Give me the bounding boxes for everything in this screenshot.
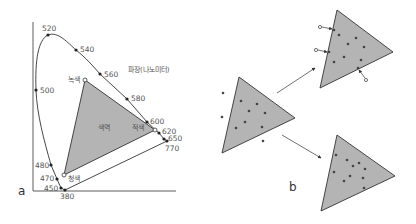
- red-primary-marker: [153, 128, 157, 132]
- diagram-canvas: 520 540 560 580 600 620 650 770 500 480 …: [0, 0, 416, 224]
- bottom-triangle: [321, 135, 395, 211]
- top-triangle: [320, 10, 393, 88]
- wl-label-520: 520: [42, 24, 57, 33]
- green-primary-marker: [83, 78, 87, 82]
- wl-label-600: 600: [150, 117, 165, 126]
- label-green: 녹색: [68, 75, 80, 84]
- wl-label-380: 380: [60, 192, 75, 201]
- blue-primary-marker: [62, 173, 66, 177]
- axis-label-wavelength: 파장(나노미터): [128, 65, 170, 74]
- wl-label-480: 480: [35, 161, 50, 170]
- label-gamut: 색역: [98, 123, 110, 132]
- wl-label-540: 540: [80, 45, 95, 54]
- diagram-svg: 520 540 560 580 600 620 650 770 500 480 …: [0, 0, 416, 224]
- panel-a-label: a: [18, 184, 25, 198]
- arrow-to-top: [277, 68, 315, 93]
- panel-b: b: [221, 10, 395, 211]
- wl-label-500: 500: [40, 86, 55, 95]
- label-blue: 청색: [68, 174, 80, 183]
- panel-b-label: b: [289, 180, 297, 194]
- wl-label-770: 770: [165, 144, 180, 153]
- wl-label-560: 560: [104, 70, 119, 79]
- wl-label-470: 470: [40, 174, 55, 183]
- panel-a: 520 540 560 580 600 620 650 770 500 480 …: [18, 22, 183, 201]
- arrow-to-bottom: [282, 135, 321, 158]
- label-red: 적색: [132, 123, 144, 132]
- wl-label-580: 580: [131, 94, 146, 103]
- wl-label-450: 450: [44, 184, 59, 193]
- wl-label-650: 650: [168, 134, 183, 143]
